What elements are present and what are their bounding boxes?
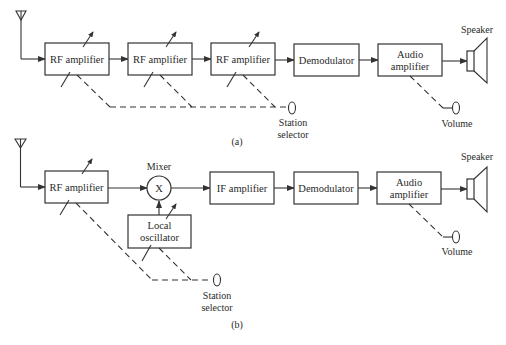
speaker-label: Speaker: [461, 24, 494, 35]
receiver-block-diagrams: RF amplifier RF amplifier RF amplifier D…: [0, 0, 506, 345]
amplifier-label: amplifier: [390, 189, 429, 200]
audio-amplifier-block: Audio amplifier: [378, 44, 442, 76]
caption-b: (b): [231, 319, 243, 331]
diagram-a: RF amplifier RF amplifier RF amplifier D…: [16, 11, 494, 148]
antenna-icon: [16, 11, 45, 59]
rf-amplifier-block-3: RF amplifier: [211, 32, 275, 87]
volume-linkage: [409, 204, 452, 237]
audio-amplifier-block: Audio amplifier: [377, 172, 441, 204]
station-selector-label: Station: [279, 117, 307, 128]
if-amplifier-label: IF amplifier: [217, 183, 268, 194]
speaker-label: Speaker: [461, 151, 494, 162]
ganged-tuning-linkage: [77, 75, 286, 107]
volume-label: Volume: [442, 118, 473, 129]
volume-knob-icon: [453, 231, 460, 243]
station-selector-knob-icon: [214, 274, 221, 286]
station-selector-knob-icon: [289, 102, 296, 114]
if-amplifier-block: IF amplifier: [210, 172, 274, 204]
mixer-label: Mixer: [147, 161, 172, 172]
rf-amplifier-label: RF amplifier: [133, 54, 187, 65]
rf-amplifier-block-2: RF amplifier: [128, 32, 192, 87]
station-selector-label: Station: [203, 290, 231, 301]
caption-a: (a): [231, 136, 242, 148]
demodulator-block: Demodulator: [294, 172, 358, 204]
volume-label: Volume: [442, 246, 473, 257]
audio-label: Audio: [397, 49, 423, 60]
rf-amplifier-block: RF amplifier: [45, 159, 108, 215]
volume-knob-icon: [453, 102, 460, 114]
speaker-icon: [467, 167, 487, 212]
station-selector-label-2: selector: [277, 129, 309, 140]
mixer-symbol: X: [155, 183, 163, 194]
antenna-icon: [15, 139, 45, 187]
diagram-b: RF amplifier X Mixer Local oscillator IF…: [15, 139, 494, 331]
audio-label: Audio: [396, 177, 422, 188]
rf-amplifier-label: RF amplifier: [50, 182, 104, 193]
mixer-block: X: [147, 176, 171, 200]
rf-amplifier-label: RF amplifier: [216, 54, 270, 65]
station-selector-label-2: selector: [201, 302, 233, 313]
speaker-icon: [467, 38, 487, 83]
demodulator-label: Demodulator: [299, 55, 355, 66]
oscillator-label: oscillator: [140, 232, 180, 243]
amplifier-label: amplifier: [391, 61, 430, 72]
demodulator-label: Demodulator: [298, 183, 354, 194]
volume-linkage: [410, 76, 452, 108]
local-label: Local: [148, 220, 172, 231]
rf-amplifier-block-1: RF amplifier: [45, 32, 109, 87]
demodulator-block: Demodulator: [294, 44, 359, 76]
rf-amplifier-label: RF amplifier: [50, 54, 104, 65]
